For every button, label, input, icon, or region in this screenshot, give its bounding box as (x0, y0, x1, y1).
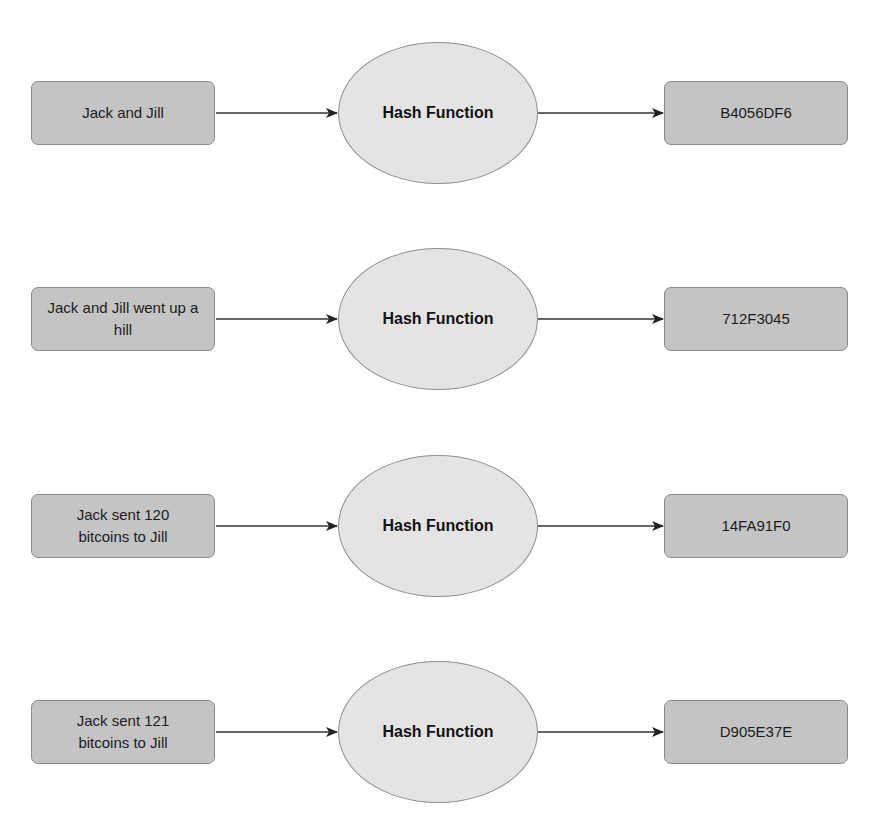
hash-row-2: Jack and Jill went up a hill Hash Functi… (0, 244, 881, 394)
hash-function-label: Hash Function (382, 104, 493, 122)
hash-function-label: Hash Function (382, 723, 493, 741)
input-text: Jack sent 121 bitcoins to Jill (52, 710, 194, 754)
input-text: Jack and Jill went up a hill (32, 297, 214, 341)
hash-row-4: Jack sent 121 bitcoins to Jill Hash Func… (0, 657, 881, 807)
input-box: Jack and Jill (31, 81, 215, 145)
hash-function-label: Hash Function (382, 310, 493, 328)
output-hash-box: 712F3045 (664, 287, 848, 351)
hash-function-label: Hash Function (382, 517, 493, 535)
hash-function-node: Hash Function (338, 661, 538, 803)
hash-function-node: Hash Function (338, 248, 538, 390)
hash-row-1: Jack and Jill Hash Function B4056DF6 (0, 38, 881, 188)
output-hash-box: 14FA91F0 (664, 494, 848, 558)
input-box: Jack sent 120 bitcoins to Jill (31, 494, 215, 558)
output-hash-box: B4056DF6 (664, 81, 848, 145)
output-hash-text: 14FA91F0 (715, 515, 796, 537)
output-hash-text: B4056DF6 (714, 102, 798, 124)
output-hash-box: D905E37E (664, 700, 848, 764)
input-box: Jack and Jill went up a hill (31, 287, 215, 351)
hash-row-3: Jack sent 120 bitcoins to Jill Hash Func… (0, 451, 881, 601)
output-hash-text: 712F3045 (716, 308, 796, 330)
input-box: Jack sent 121 bitcoins to Jill (31, 700, 215, 764)
output-hash-text: D905E37E (714, 721, 799, 743)
hash-function-node: Hash Function (338, 455, 538, 597)
input-text: Jack and Jill (76, 102, 170, 124)
input-text: Jack sent 120 bitcoins to Jill (52, 504, 194, 548)
hash-function-node: Hash Function (338, 42, 538, 184)
